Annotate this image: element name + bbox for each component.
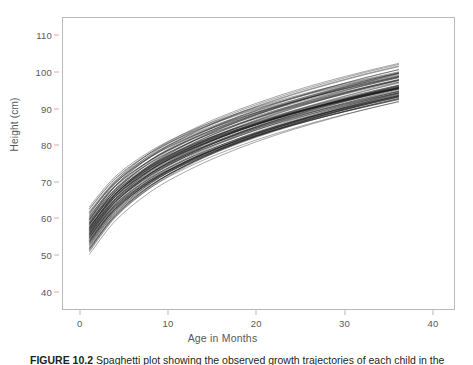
y-tick-mark (54, 218, 59, 219)
x-tick-label: 0 (77, 318, 82, 329)
x-tick-mark (344, 310, 345, 315)
y-tick-label: 60 (41, 213, 52, 224)
y-tick-mark (54, 255, 59, 256)
y-tick-mark (54, 108, 59, 109)
x-tick-mark (167, 310, 168, 315)
growth-curve-line (89, 93, 398, 246)
y-tick-label: 40 (41, 286, 52, 297)
x-tick-label: 20 (251, 318, 262, 329)
growth-curve-line (89, 78, 398, 231)
growth-curve-line (89, 86, 398, 238)
y-tick-mark (54, 35, 59, 36)
x-axis: 010203040 Age in Months (0, 310, 473, 355)
y-tick-label: 100 (36, 66, 52, 77)
y-tick-label: 110 (36, 30, 52, 41)
growth-curve-line (89, 88, 398, 228)
y-tick-label: 90 (41, 103, 52, 114)
growth-curve-line (89, 88, 398, 224)
growth-curve-line (89, 87, 398, 228)
y-axis-title: Height (cm) (9, 65, 20, 185)
growth-curve-line (89, 89, 398, 234)
growth-curve-figure: Height (cm) 405060708090100110 010203040… (0, 0, 473, 365)
y-tick-label: 70 (41, 176, 52, 187)
figure-caption-body: Spaghetti plot showing the observed grow… (96, 354, 444, 365)
figure-caption-number: FIGURE 10.2 (30, 354, 93, 365)
x-axis-title-text: Age in Months (188, 332, 258, 344)
growth-curve-line (89, 88, 398, 225)
y-tick-mark (54, 71, 59, 72)
y-tick-mark (54, 145, 59, 146)
x-tick-label: 10 (162, 318, 173, 329)
y-tick-label: 50 (41, 250, 52, 261)
growth-curve-line (89, 89, 398, 222)
growth-curve-line (89, 88, 398, 224)
y-axis: Height (cm) 405060708090100110 (0, 0, 62, 327)
figure-caption: FIGURE 10.2 Spaghetti plot showing the o… (30, 354, 450, 365)
x-tick-label: 40 (427, 318, 438, 329)
growth-curve-line (89, 99, 398, 239)
x-tick-mark (432, 310, 433, 315)
x-tick-mark (79, 310, 80, 315)
curve-layer (89, 63, 398, 254)
y-tick-mark (54, 291, 59, 292)
x-tick-label: 30 (339, 318, 350, 329)
growth-curve-line (89, 70, 398, 225)
y-tick-mark (54, 181, 59, 182)
growth-curves-svg (63, 18, 456, 311)
growth-curve-line (89, 80, 398, 228)
plot-area (62, 17, 455, 310)
x-axis-title: Age in Months (0, 332, 473, 344)
y-tick-label: 80 (41, 140, 52, 151)
x-tick-mark (256, 310, 257, 315)
